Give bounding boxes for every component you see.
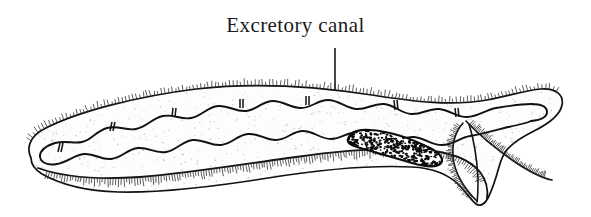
stipple-dot <box>541 92 542 93</box>
stipple-dot <box>101 167 102 168</box>
organ-stipple-dot <box>428 148 430 150</box>
stipple-dot <box>364 111 366 113</box>
cilium <box>149 91 151 97</box>
organ-stipple-dot <box>408 139 412 141</box>
stipple-dot <box>438 122 439 123</box>
stipple-dot <box>145 136 146 137</box>
stipple-dot <box>425 141 426 142</box>
stipple-dot <box>490 186 491 187</box>
stipple-dot <box>463 127 464 128</box>
organ-stipple-dot <box>411 156 414 158</box>
organ-stipple-dot <box>369 132 372 134</box>
stipple-dot <box>340 163 341 164</box>
stipple-dot <box>79 131 81 133</box>
cilium <box>146 90 148 96</box>
stipple-dot <box>366 164 367 165</box>
stipple-dot <box>158 100 159 101</box>
stipple-dot <box>400 116 401 117</box>
organ-stipple-dot <box>382 152 385 155</box>
stipple-dot <box>408 128 409 129</box>
stipple-dot <box>466 169 467 170</box>
organ-stipple-dot <box>405 148 407 151</box>
organ-stipple-dot <box>386 146 389 149</box>
stipple-dot <box>307 133 308 134</box>
stipple-dot <box>122 122 123 123</box>
organ-stipple-dot <box>421 152 423 154</box>
stipple-dot <box>339 96 341 98</box>
stipple-dot <box>222 124 223 125</box>
stipple-dot <box>95 169 96 170</box>
stipple-dot <box>130 168 131 169</box>
cilium <box>291 84 292 87</box>
stipple-dot <box>119 114 120 115</box>
organ-stipple-dot <box>402 148 404 150</box>
stipple-dot <box>378 117 380 119</box>
stipple-dot <box>265 108 267 110</box>
stipple-dot <box>106 125 107 126</box>
stipple-dot <box>467 140 468 141</box>
stipple-dot <box>169 131 170 132</box>
stipple-dot <box>344 124 345 125</box>
stipple-dot <box>338 112 339 113</box>
stipple-dot <box>197 151 198 152</box>
stipple-dot <box>220 110 221 111</box>
canal-rung <box>175 108 176 117</box>
stipple-dot <box>49 176 50 177</box>
organ-stipple-dot <box>393 149 396 151</box>
stipple-dot <box>482 118 483 119</box>
organ-stipple-dot <box>357 143 359 145</box>
stipple-dot <box>415 132 416 133</box>
stipple-dot <box>60 160 61 161</box>
organ-stipple-dot <box>373 139 376 141</box>
cilium <box>299 80 300 87</box>
stipple-dot <box>145 102 146 103</box>
stipple-dot <box>150 145 151 146</box>
organ-stipple-dot <box>379 146 382 148</box>
organ-stipple-dot <box>379 140 382 141</box>
stipple-dot <box>191 158 192 159</box>
stipple-dot <box>164 132 166 134</box>
organ-stipple-dot <box>399 142 401 145</box>
cilium <box>295 81 296 87</box>
stipple-dot <box>245 92 246 93</box>
cilium <box>406 95 407 100</box>
stipple-dot <box>201 134 202 135</box>
stipple-dot <box>510 138 511 139</box>
cilium <box>161 88 162 94</box>
stipple-dot <box>347 167 348 168</box>
stipple-dot <box>463 125 464 126</box>
stipple-dot <box>213 103 215 105</box>
stipple-dot <box>210 139 211 140</box>
stipple-dot <box>269 131 270 132</box>
stipple-dot <box>270 153 271 154</box>
stipple-dot <box>260 115 261 116</box>
canal-rung <box>394 100 395 110</box>
stipple-dot <box>386 123 387 124</box>
organ-stipple-dot <box>369 150 372 152</box>
organ-stipple-dot <box>430 150 433 151</box>
stipple-dot <box>550 118 551 119</box>
stipple-dot <box>497 140 498 141</box>
cilium <box>91 107 92 111</box>
stipple-dot <box>352 97 353 98</box>
stipple-dot <box>231 154 232 155</box>
stipple-dot <box>332 106 333 107</box>
organ-stipple-dot <box>355 131 358 133</box>
cilium <box>522 86 524 92</box>
stipple-dot <box>151 185 152 186</box>
organ-stipple-dot <box>422 146 424 148</box>
stipple-dot <box>499 152 500 153</box>
stipple-dot <box>67 143 68 144</box>
stipple-dot <box>340 122 341 123</box>
stipple-dot <box>53 132 54 133</box>
organ-stipple-dot <box>385 151 387 153</box>
stipple-dot <box>89 146 90 147</box>
stipple-dot <box>88 161 89 162</box>
stipple-dot <box>215 165 216 166</box>
stipple-dot <box>39 160 40 161</box>
stipple-dot <box>493 103 494 104</box>
stipple-dot <box>317 92 319 94</box>
cilium <box>91 178 92 183</box>
cilium <box>85 106 88 112</box>
stipple-dot <box>213 121 215 123</box>
